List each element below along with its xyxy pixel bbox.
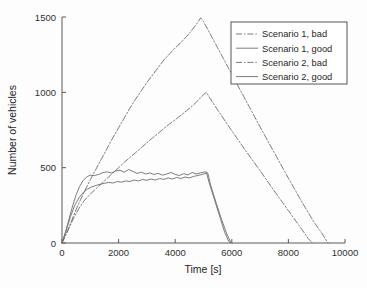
x-axis-tick-labels: 0200040006000800010000: [59, 247, 358, 258]
chart-figure: 0200040006000800010000 050010001500 Time…: [0, 0, 367, 288]
chart-plot-area: 0200040006000800010000 050010001500 Time…: [0, 0, 367, 288]
series-line-3: [62, 92, 312, 243]
y-axis-ticks: [62, 17, 66, 243]
x-tick-label: 8000: [278, 247, 299, 258]
chart-legend: Scenario 1, badScenario 1, goodScenario …: [231, 22, 347, 84]
legend-label-4: Scenario 2, good: [262, 72, 332, 82]
y-tick-label: 500: [40, 162, 56, 173]
legend-label-2: Scenario 1, good: [262, 44, 332, 54]
y-axis-tick-labels: 050010001500: [35, 12, 56, 249]
y-axis-title: Number of vehicles: [6, 85, 18, 175]
x-axis-title: Time [s]: [185, 263, 222, 275]
x-tick-label: 0: [59, 247, 64, 258]
y-tick-label: 0: [51, 238, 56, 249]
series-line-4: [62, 173, 232, 243]
x-tick-label: 10000: [332, 247, 358, 258]
x-tick-label: 4000: [165, 247, 186, 258]
legend-label-1: Scenario 1, bad: [262, 29, 327, 39]
legend-label-3: Scenario 2, bad: [262, 58, 327, 68]
y-tick-label: 1500: [35, 12, 56, 23]
x-tick-label: 6000: [221, 247, 242, 258]
x-tick-label: 2000: [108, 247, 129, 258]
y-tick-label: 1000: [35, 87, 56, 98]
x-axis-ticks: [62, 239, 345, 243]
